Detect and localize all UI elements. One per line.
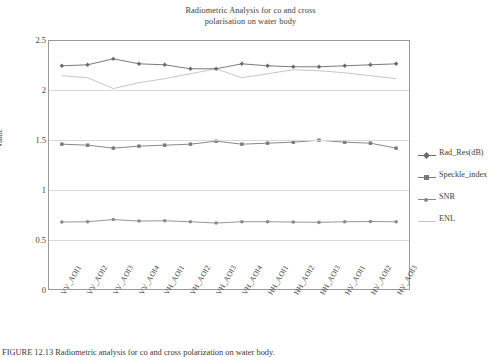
data-point-marker [394, 146, 397, 149]
data-point-marker [111, 57, 115, 61]
plot-area [48, 40, 410, 290]
legend-marker-square-icon [418, 174, 436, 181]
series-canvas [49, 41, 409, 289]
data-point-marker [291, 65, 295, 69]
chart-title-line-2: polarisation on water body [0, 16, 501, 27]
y-tick-label: 1 [6, 185, 46, 195]
legend-item-snr[interactable]: SNR [418, 192, 501, 203]
data-point-marker [86, 220, 90, 224]
chart-title: Radiometric Analysis for co and cross po… [0, 5, 501, 27]
data-point-marker [60, 64, 64, 68]
data-point-marker [188, 67, 192, 71]
legend-item-rad-res[interactable]: Rad_Res(dB) [418, 148, 501, 159]
legend-item-speckle-index[interactable]: Speckle_index [418, 170, 501, 181]
data-point-marker [137, 144, 140, 147]
data-point-marker [394, 62, 398, 66]
data-point-marker [265, 64, 269, 68]
y-tick-label: 1.5 [6, 135, 46, 145]
data-point-marker [85, 63, 89, 67]
legend-marker-circle-icon [418, 196, 436, 203]
series-line [62, 59, 396, 69]
data-point-marker [214, 67, 218, 71]
data-point-marker [60, 142, 63, 145]
gridline [49, 190, 409, 191]
data-point-marker [189, 220, 193, 224]
data-point-marker [214, 221, 218, 225]
y-tick-label: 2 [6, 85, 46, 95]
figure-caption: FIGURE 12.13 Radiometric analysis for co… [2, 348, 499, 357]
gridline [49, 90, 409, 91]
gridline [49, 240, 409, 241]
data-point-marker [163, 219, 167, 223]
legend-label: SNR [439, 192, 501, 202]
data-point-marker [112, 146, 115, 149]
data-point-marker [369, 220, 373, 224]
y-axis-title: Value [0, 129, 4, 148]
series-line [62, 69, 396, 89]
data-point-marker [266, 220, 270, 224]
data-point-marker [163, 143, 166, 146]
legend-item-enl[interactable]: ENL [418, 214, 501, 225]
legend-marker-diamond-icon [418, 152, 436, 159]
data-point-marker [163, 63, 167, 67]
data-point-marker [317, 65, 321, 69]
chart-title-line-1: Radiometric Analysis for co and cross [0, 5, 501, 16]
data-point-marker [317, 221, 321, 225]
data-point-marker [189, 142, 192, 145]
data-point-marker [394, 220, 398, 224]
data-point-marker [343, 220, 347, 224]
data-point-marker [240, 62, 244, 66]
chart-legend: Rad_Res(dB) Speckle_index SNR ENL [418, 148, 501, 236]
gridline [49, 140, 409, 141]
data-point-marker [368, 63, 372, 67]
y-tick-label: 0.5 [6, 235, 46, 245]
data-point-marker [266, 141, 269, 144]
data-point-marker [369, 141, 372, 144]
legend-label: ENL [439, 214, 501, 224]
data-point-marker [291, 220, 295, 224]
x-axis-labels: VV_AOI1VV_AOI2VV_AOI3VV_AOI4VH_AOI1VH_AO… [48, 292, 410, 352]
legend-marker-line-icon [418, 218, 436, 225]
data-point-marker [60, 220, 64, 224]
data-point-marker [240, 142, 243, 145]
legend-label: Speckle_index [439, 170, 501, 180]
legend-label: Rad_Res(dB) [439, 148, 501, 158]
data-point-marker [86, 143, 89, 146]
data-point-marker [240, 220, 244, 224]
y-tick-label: 0 [6, 285, 46, 295]
data-point-marker [111, 218, 115, 222]
data-point-marker [137, 219, 141, 223]
y-tick-label: 2.5 [6, 35, 46, 45]
data-point-marker [137, 62, 141, 66]
data-point-marker [343, 64, 347, 68]
